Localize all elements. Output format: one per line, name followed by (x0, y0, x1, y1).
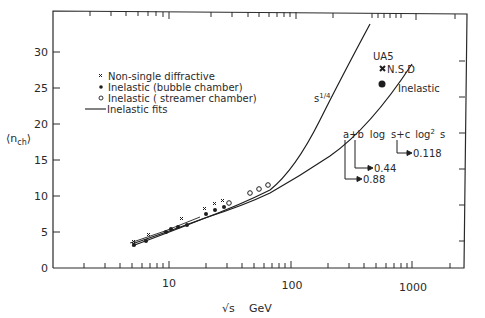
x-axis-tick-labels: 10 100 1000 (162, 277, 427, 294)
ua5-label: UA5 (373, 51, 394, 62)
legend-open-circle-icon (99, 96, 103, 100)
legend: Non-single diffractive Inelastic (bubble… (85, 71, 257, 115)
ytick-20: 20 (34, 118, 48, 131)
xtick-1000: 1000 (399, 281, 427, 294)
inelastic-label: Inelastic (398, 83, 440, 94)
svg-text:√s: √s (222, 302, 235, 315)
annotations: s1/4 UA5 N.S.D Inelastic a+blogs+clog2s … (314, 51, 445, 185)
ytick-5: 5 (41, 226, 48, 239)
coef-a: 0.88 (363, 174, 385, 185)
ytick-0: 0 (41, 262, 48, 275)
nsd-label: N.S.D (387, 64, 415, 75)
coef-b: 0.44 (374, 163, 396, 174)
formula: a+blogs+clog2s (343, 128, 445, 140)
y-axis-title: ⟨nch⟩ (6, 132, 31, 147)
ytick-30: 30 (34, 46, 48, 59)
xtick-10: 10 (162, 277, 176, 290)
legend-filled-circle-icon (99, 85, 103, 89)
ytick-10: 10 (34, 190, 48, 203)
series-bubble-filled (132, 81, 386, 248)
svg-text:GeV: GeV (249, 302, 272, 315)
s14-fit-curve (132, 24, 370, 246)
xtick-100: 100 (282, 279, 303, 292)
ytick-15: 15 (34, 154, 48, 167)
coef-c: 0.118 (413, 148, 442, 159)
svg-text:Inelastic (bubble chamber): Inelastic (bubble chamber) (108, 82, 243, 93)
legend-cross-icon (99, 74, 102, 77)
chart-canvas: 30 25 20 15 10 5 0 (0, 0, 485, 318)
svg-text:Inelastic fits: Inelastic fits (107, 104, 167, 115)
svg-text:Non-single diffractive: Non-single diffractive (108, 71, 215, 82)
y-axis-tick-labels: 30 25 20 15 10 5 0 (34, 46, 48, 275)
ytick-25: 25 (34, 82, 48, 95)
svg-text:⟨nch⟩: ⟨nch⟩ (6, 132, 31, 147)
svg-text:Inelastic ( streamer chamber: Inelastic ( streamer chamber) (108, 93, 257, 104)
x-axis-title: √s GeV (222, 302, 272, 315)
